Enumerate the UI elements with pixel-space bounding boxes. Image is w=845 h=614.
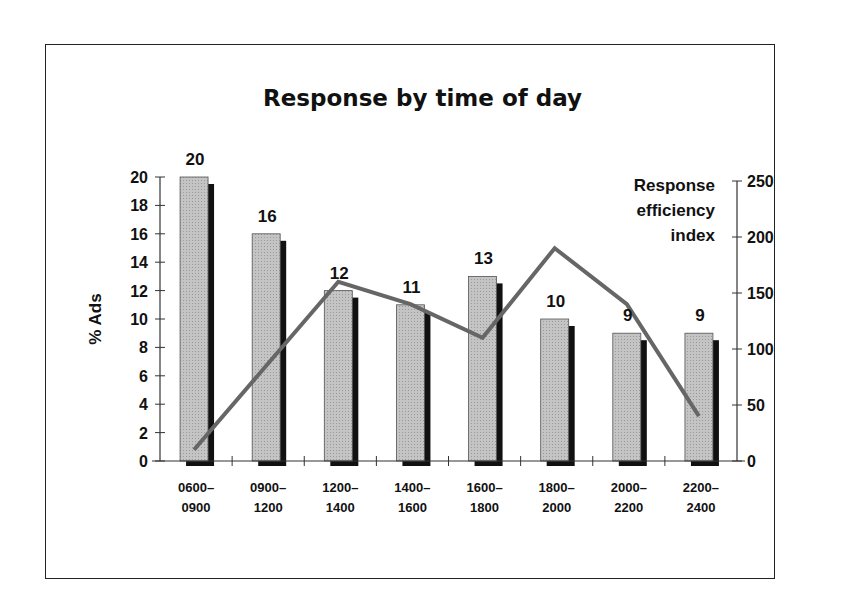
y-tick-label: 12 [130,283,148,300]
y-tick-label: 2 [139,425,148,442]
chart-plot: 2016121113109902468101214161820050100150… [0,0,845,614]
y2-axis-label: index [671,226,716,245]
y-axis-label: % Ads [86,293,105,344]
x-tick-label: 1800– [539,480,575,495]
y-tick-label: 16 [130,226,148,243]
bar [180,177,208,461]
x-tick-label: 0900– [250,480,286,495]
bar-value-label: 10 [546,292,565,311]
y2-tick-label: 200 [747,229,774,246]
y2-tick-label: 250 [747,173,774,190]
y2-axis-label: efficiency [637,201,716,220]
bar [469,276,497,461]
bar [685,333,713,461]
bar-value-label: 16 [258,207,277,226]
bar [252,234,280,461]
y-tick-label: 4 [139,396,148,413]
y-tick-label: 20 [130,169,148,186]
y-tick-label: 10 [130,311,148,328]
x-tick-label: 1400 [326,500,355,515]
y-tick-label: 6 [139,368,148,385]
x-tick-label: 0600– [178,480,214,495]
y-tick-label: 14 [130,254,148,271]
bar-value-label: 9 [623,306,632,325]
x-tick-label: 2000 [542,500,571,515]
bar-value-label: 13 [474,249,493,268]
y2-axis-label: Response [634,176,715,195]
x-tick-label: 1200– [322,480,358,495]
x-tick-label: 1600 [398,500,427,515]
bar [396,305,424,461]
y2-tick-label: 100 [747,341,774,358]
y-tick-label: 0 [139,453,148,470]
x-tick-label: 2000– [611,480,647,495]
y-tick-label: 8 [139,339,148,356]
x-tick-label: 1400– [394,480,430,495]
bar [324,291,352,461]
bar [541,319,569,461]
x-tick-label: 2200 [614,500,643,515]
x-tick-label: 1200 [254,500,283,515]
bar-value-label: 11 [402,278,420,297]
bar-value-label: 9 [695,306,704,325]
bar [613,333,641,461]
y2-tick-label: 0 [747,453,756,470]
bar-value-label: 20 [186,150,205,169]
y-tick-label: 18 [130,197,148,214]
y2-tick-label: 50 [747,397,765,414]
y2-tick-label: 150 [747,285,774,302]
x-tick-label: 0900 [182,500,211,515]
x-tick-label: 1600– [466,480,502,495]
x-tick-label: 2200– [683,480,719,495]
x-tick-label: 1800 [470,500,499,515]
bar-value-label: 12 [330,264,349,283]
x-tick-label: 2400 [686,500,715,515]
